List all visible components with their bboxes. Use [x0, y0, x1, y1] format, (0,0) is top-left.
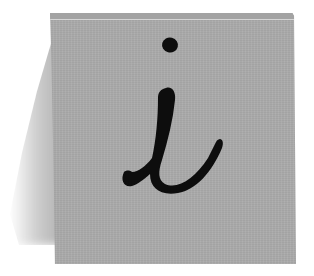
sticky-note-scene: i	[0, 0, 314, 276]
info-icon	[0, 0, 314, 276]
info-dot	[160, 36, 179, 55]
info-stroke	[122, 88, 222, 194]
